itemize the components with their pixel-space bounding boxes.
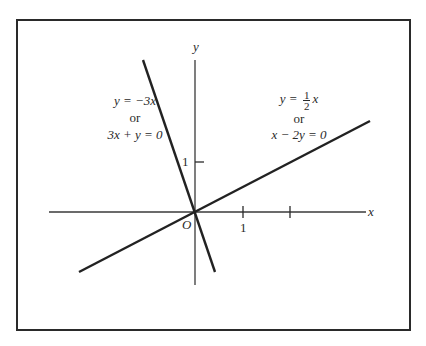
x-tick-label: 1 — [240, 221, 247, 235]
shallow-eq-prefix: y = — [280, 91, 301, 106]
shallow-line-alt-equation: x − 2y = 0 — [262, 128, 336, 142]
shallow-line-or: or — [262, 112, 336, 126]
shallow-line-annotation: y = 12x or x − 2y = 0 — [262, 90, 336, 142]
coordinate-plane — [0, 0, 426, 346]
y-axis-label: y — [193, 40, 199, 54]
steep-line-annotation: y = −3x or 3x + y = 0 — [102, 94, 168, 142]
origin-label: O — [182, 218, 191, 232]
line-y-equals-half-x — [79, 121, 370, 272]
shallow-eq-suffix: x — [312, 91, 318, 106]
fraction-one-half: 12 — [303, 90, 311, 111]
steep-line-or: or — [102, 111, 168, 125]
steep-line-alt-equation: 3x + y = 0 — [102, 128, 168, 142]
steep-line-equation: y = −3x — [102, 94, 168, 108]
y-tick-label: 1 — [182, 155, 189, 169]
shallow-line-equation: y = 12x — [262, 90, 336, 111]
x-axis-label: x — [368, 205, 374, 219]
line-y-equals-minus-3x — [143, 60, 215, 272]
fraction-denominator: 2 — [303, 101, 311, 111]
